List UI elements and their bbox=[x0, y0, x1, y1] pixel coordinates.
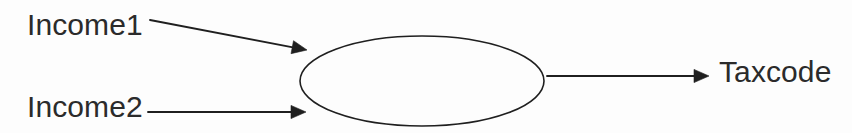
arrowhead-income2-icon bbox=[291, 105, 306, 118]
node-label-income2[interactable]: Income2 bbox=[27, 92, 143, 122]
node-label-income1[interactable]: Income1 bbox=[27, 10, 143, 40]
arrowhead-taxcode-icon bbox=[694, 69, 709, 82]
arrow-income1-to-process bbox=[150, 20, 307, 54]
node-label-taxcode[interactable]: Taxcode bbox=[719, 57, 831, 87]
arrow-process-to-taxcode bbox=[547, 69, 709, 82]
process-ellipse[interactable] bbox=[300, 36, 544, 126]
diagram-canvas: Income1 Income2 Taxcode bbox=[0, 0, 852, 133]
arrowhead-income1-icon bbox=[291, 41, 307, 54]
arrow-income2-to-process bbox=[148, 105, 306, 118]
